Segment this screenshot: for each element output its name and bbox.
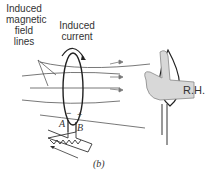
label-line: Induced <box>55 20 99 31</box>
terminal-b-label: B <box>77 122 83 133</box>
induced-field-lines-label: Induced magnetic field lines <box>6 3 42 47</box>
figure-caption: (b) <box>93 158 105 169</box>
field-arrows <box>110 60 123 92</box>
resistor-arrow <box>52 147 78 158</box>
magnetic-field-lines <box>22 62 150 128</box>
label-line: lines <box>6 36 42 47</box>
induced-current-label: Induced current <box>55 20 99 42</box>
minus-sign: − <box>66 108 71 118</box>
label-line: current <box>55 31 99 42</box>
label-line: magnetic <box>6 14 42 25</box>
right-hand-label: R.H. <box>183 84 205 96</box>
label-line: field <box>6 25 42 36</box>
label-line: Induced <box>6 3 42 14</box>
plus-sign: + <box>77 110 82 120</box>
terminal-a-label: A <box>59 118 65 129</box>
